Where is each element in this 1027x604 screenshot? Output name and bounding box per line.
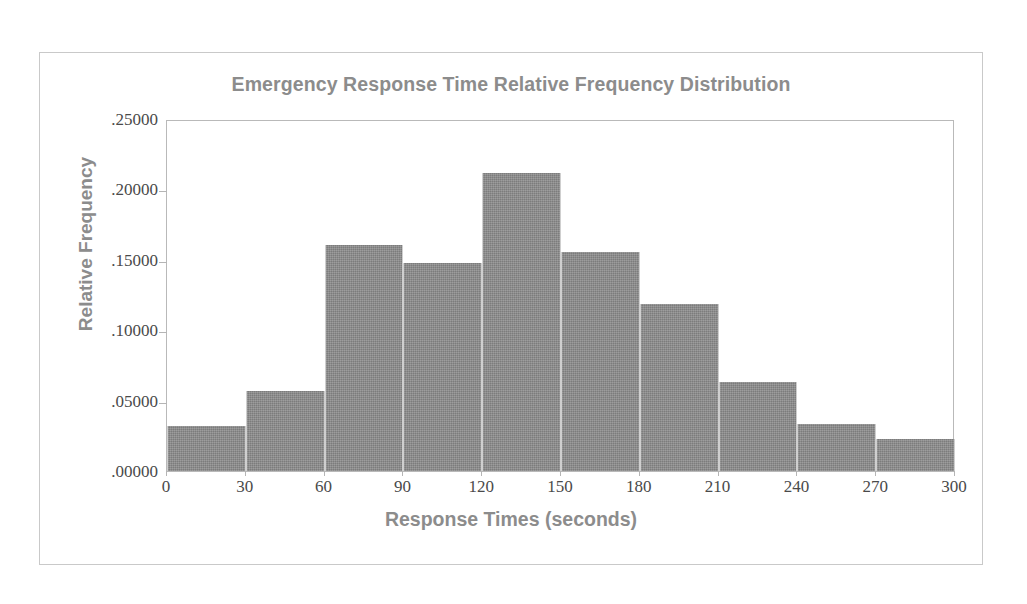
chart-title: Emergency Response Time Relative Frequen… — [40, 73, 982, 96]
histogram-bars — [167, 121, 953, 471]
x-axis-tick-mark — [324, 471, 325, 476]
x-axis-tick-label: 120 — [468, 477, 494, 497]
y-axis-tick-label: .25000 — [111, 110, 158, 130]
y-axis-tick-label: .00000 — [111, 462, 158, 482]
histogram-bar — [482, 173, 561, 471]
y-axis-tick-mark — [159, 191, 167, 192]
x-axis-tick-labels: 0306090120150180210240270300 — [166, 477, 954, 503]
x-axis-tick-label: 240 — [784, 477, 810, 497]
x-axis-tick-mark — [875, 471, 876, 476]
x-axis-tick-label: 60 — [315, 477, 332, 497]
x-axis-tick-mark — [481, 471, 482, 476]
x-axis-tick-mark — [954, 471, 955, 476]
x-axis-tick-mark — [639, 471, 640, 476]
x-axis-tick-label: 180 — [626, 477, 652, 497]
x-axis-tick-mark — [245, 471, 246, 476]
y-axis-tick-mark — [159, 403, 167, 404]
x-axis-tick-label: 210 — [705, 477, 731, 497]
x-axis-tick-label: 270 — [862, 477, 888, 497]
x-axis-tick-mark — [560, 471, 561, 476]
histogram-bar — [246, 391, 325, 471]
y-axis-tick-label: .10000 — [111, 321, 158, 341]
histogram-bar — [876, 439, 955, 471]
x-axis-tick-label: 300 — [941, 477, 967, 497]
x-axis-tick-mark — [166, 471, 167, 476]
y-axis-tick-label: .20000 — [111, 180, 158, 200]
x-axis-tick-mark — [796, 471, 797, 476]
y-axis-tick-labels: .00000.05000.10000.15000.20000.25000 — [64, 120, 158, 472]
histogram-bar — [561, 252, 640, 471]
x-axis-title: Response Times (seconds) — [40, 508, 982, 531]
histogram-bar — [325, 245, 404, 471]
histogram-bar — [640, 304, 719, 471]
histogram-bar — [719, 382, 798, 471]
x-axis-tick-mark — [718, 471, 719, 476]
y-axis-tick-label: .05000 — [111, 392, 158, 412]
histogram-bar — [167, 426, 246, 471]
y-axis-tick-mark — [159, 332, 167, 333]
x-axis-tick-label: 150 — [547, 477, 573, 497]
x-axis-tick-mark — [402, 471, 403, 476]
chart-page-frame: Emergency Response Time Relative Frequen… — [39, 52, 983, 565]
histogram-bar — [403, 263, 482, 471]
plot-area — [166, 120, 954, 472]
histogram-bar — [797, 424, 876, 471]
x-axis-tick-label: 0 — [162, 477, 171, 497]
x-axis-tick-label: 30 — [236, 477, 253, 497]
x-axis-tick-label: 90 — [394, 477, 411, 497]
y-axis-tick-mark — [159, 262, 167, 263]
y-axis-tick-label: .15000 — [111, 251, 158, 271]
